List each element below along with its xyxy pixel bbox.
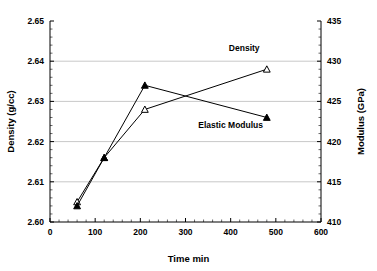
series-annotation-density: Density xyxy=(229,43,260,53)
series-annotation-elastic-modulus: Elastic Modulus xyxy=(198,120,263,130)
y-axis-tick-label: 2.60 xyxy=(27,217,44,227)
y2-axis-tick-label: 430 xyxy=(327,56,341,66)
x-axis-tick-label: 300 xyxy=(178,227,192,237)
chart-container: 2.602.612.622.632.642.654104154204254304… xyxy=(0,0,377,271)
y2-axis-tick-label: 415 xyxy=(327,177,341,187)
y-axis-tick-label: 2.63 xyxy=(27,96,44,106)
x-axis-tick-label: 0 xyxy=(48,227,53,237)
x-axis-tick-label: 600 xyxy=(314,227,328,237)
y2-axis-tick-label: 420 xyxy=(327,137,341,147)
x-axis-tick-label: 500 xyxy=(269,227,283,237)
dual-axis-line-chart: 2.602.612.622.632.642.654104154204254304… xyxy=(0,0,377,271)
y-axis-tick-label: 2.62 xyxy=(27,137,44,147)
y-axis-title: Density (g/cc) xyxy=(5,90,16,152)
x-axis-tick-label: 400 xyxy=(224,227,238,237)
y-axis-tick-label: 2.64 xyxy=(27,56,44,66)
x-axis-tick-label: 100 xyxy=(88,227,102,237)
y2-axis-title: Modulus (GPa) xyxy=(355,88,366,155)
y-axis-tick-label: 2.65 xyxy=(27,16,44,26)
y2-axis-tick-label: 435 xyxy=(327,16,341,26)
y2-axis-tick-label: 410 xyxy=(327,217,341,227)
x-axis-tick-label: 200 xyxy=(133,227,147,237)
y-axis-tick-label: 2.61 xyxy=(27,177,44,187)
y2-axis-tick-label: 425 xyxy=(327,96,341,106)
x-axis-title: Time min xyxy=(168,253,210,264)
